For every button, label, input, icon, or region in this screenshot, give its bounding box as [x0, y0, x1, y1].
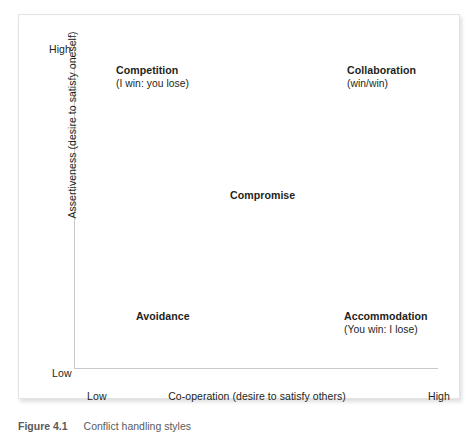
figure-caption-text: Conflict handling styles: [84, 420, 191, 432]
y-axis-low-tick-label: Low: [52, 367, 72, 379]
quadrant-subtitle-competition: (I win: you lose): [116, 77, 189, 91]
quadrant-label-compromise: Compromise: [230, 188, 295, 202]
figure-card: High Low Low High Assertiveness (desire …: [18, 14, 460, 399]
figure-caption: Figure 4.1Conflict handling styles: [18, 420, 458, 432]
quadrant-label-competition: Competition (I win: you lose): [116, 63, 189, 91]
y-axis-title: Assertiveness (desire to satisfy oneself…: [66, 28, 78, 222]
quadrant-label-collaboration: Collaboration (win/win): [347, 63, 416, 91]
x-axis-title: Co-operation (desire to satisfy others): [19, 390, 476, 402]
quadrant-title-avoidance: Avoidance: [136, 309, 190, 323]
quadrant-label-accommodation: Accommodation (You win: I lose): [344, 309, 428, 337]
quadrant-label-avoidance: Avoidance: [136, 309, 190, 323]
quadrant-title-compromise: Compromise: [230, 188, 295, 202]
quadrant-title-competition: Competition: [116, 63, 189, 77]
x-axis-line: [74, 368, 438, 369]
quadrant-subtitle-accommodation: (You win: I lose): [344, 323, 428, 337]
quadrant-subtitle-collaboration: (win/win): [347, 77, 416, 91]
quadrant-title-accommodation: Accommodation: [344, 309, 428, 323]
quadrant-title-collaboration: Collaboration: [347, 63, 416, 77]
figure-caption-number: Figure 4.1: [18, 420, 68, 432]
